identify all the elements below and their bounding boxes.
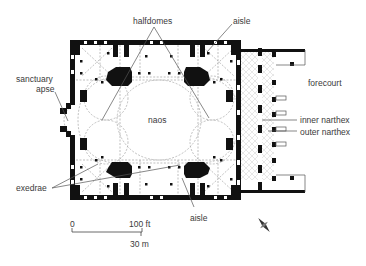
label-halfdomes: halfdomes bbox=[133, 17, 172, 26]
scale-meters: 30 m bbox=[130, 240, 149, 249]
north-arrow-icon bbox=[254, 215, 273, 235]
label-aisle-top: aisle bbox=[233, 17, 250, 26]
scale-feet: 100 ft bbox=[129, 220, 150, 229]
label-aisle-bottom: aisle bbox=[190, 214, 207, 223]
scale-bar bbox=[72, 228, 142, 236]
label-exedrae: exedrae bbox=[16, 184, 47, 193]
narthex-bays bbox=[240, 50, 274, 180]
scale-zero: 0 bbox=[70, 220, 75, 229]
label-apse: apse bbox=[36, 85, 54, 94]
label-inner-narthex: inner narthex bbox=[300, 116, 350, 125]
label-outer-narthex: outer narthex bbox=[300, 128, 350, 137]
label-forecourt: forecourt bbox=[308, 79, 342, 88]
label-sanctuary: sanctuary bbox=[16, 75, 53, 84]
label-naos: naos bbox=[148, 116, 166, 125]
